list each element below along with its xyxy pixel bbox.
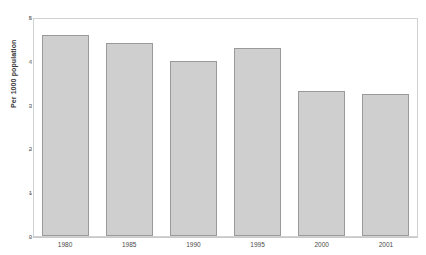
bar [298, 91, 345, 236]
y-axis-title: Per 1000 population [8, 18, 20, 108]
bar-chart: Per 1000 population 012345 1980198519901… [0, 0, 426, 255]
bar [106, 43, 153, 236]
bar [362, 94, 409, 236]
y-axis-ticks: 012345 [20, 0, 32, 255]
bar [42, 35, 89, 236]
y-tick-mark [29, 62, 32, 63]
x-axis-labels: 198019851990199520002001 [33, 240, 418, 252]
y-tick-mark [29, 149, 32, 150]
x-tick-label: 2001 [354, 240, 418, 250]
x-tick-label: 1990 [161, 240, 225, 250]
x-axis-baseline [33, 237, 418, 238]
y-tick-mark [29, 193, 32, 194]
bar [234, 48, 281, 236]
x-tick-label: 2000 [290, 240, 354, 250]
x-tick-label: 1980 [33, 240, 97, 250]
bars-layer [34, 19, 417, 236]
y-tick-mark [29, 106, 32, 107]
y-tick-mark [29, 18, 32, 19]
x-tick-label: 1985 [97, 240, 161, 250]
y-tick-mark [29, 237, 32, 238]
bar [170, 61, 217, 236]
x-tick-label: 1995 [226, 240, 290, 250]
plot-area [33, 18, 418, 237]
